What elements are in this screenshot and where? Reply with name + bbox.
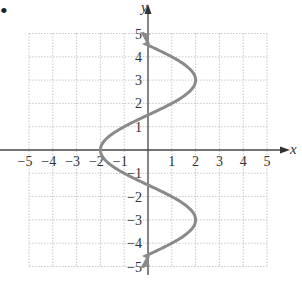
y-tick-label: 2	[135, 96, 142, 111]
x-tick-label: 1	[168, 154, 175, 169]
x-tick-label: −3	[65, 154, 80, 169]
y-tick-label: −4	[127, 236, 142, 251]
y-axis-label: y	[139, 0, 148, 15]
y-tick-label: 3	[135, 73, 142, 88]
x-tick-label: 3	[216, 154, 223, 169]
graph: x y −5−4−3−2−112345 54321−1−2−3−4−5	[0, 0, 302, 282]
x-tick-label: 4	[240, 154, 247, 169]
x-tick-label: −4	[41, 154, 56, 169]
y-tick-label: −5	[127, 260, 142, 275]
x-tick-label: 5	[264, 154, 271, 169]
x-axis-arrow-icon	[280, 147, 290, 154]
y-tick-label: 4	[135, 50, 142, 65]
x-axis-label: x	[289, 141, 297, 157]
y-tick-label: −2	[127, 190, 142, 205]
x-tick-label: 2	[192, 154, 199, 169]
y-tick-label: −3	[127, 213, 142, 228]
x-tick-labels: −5−4−3−2−112345	[18, 154, 271, 169]
x-tick-label: −5	[18, 154, 33, 169]
y-tick-label: 5	[135, 27, 142, 42]
